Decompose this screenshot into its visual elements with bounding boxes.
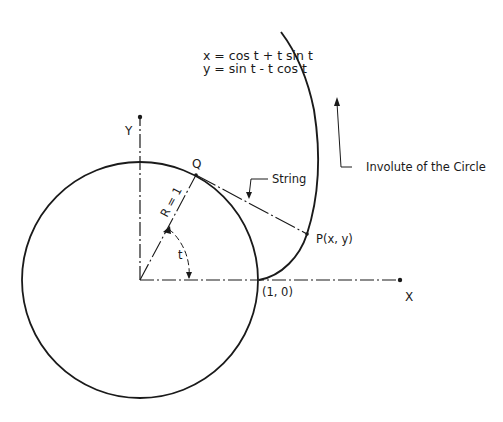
- involute-diagram: x = cos t + t sin t y = sin t - t cos t …: [0, 0, 503, 422]
- point-q-label: Q: [192, 157, 201, 171]
- radius-label: R = 1: [157, 184, 185, 219]
- involute-leader: [337, 103, 352, 167]
- x-axis-end-dot: [398, 278, 402, 282]
- involute-leader-arrow: [334, 97, 340, 106]
- angle-label: t: [178, 248, 183, 262]
- x-axis-label: X: [405, 290, 413, 304]
- involute-label: Involute of the Circle: [366, 160, 486, 174]
- angle-arrow-bottom: [186, 272, 192, 279]
- string-label: String: [272, 172, 306, 186]
- equation-y: y = sin t - t cos t: [203, 61, 307, 76]
- string-leader-arrow: [246, 192, 252, 199]
- y-axis-end-dot: [138, 115, 142, 119]
- angle-arrow-top: [163, 226, 171, 234]
- string-leader: [249, 179, 268, 196]
- y-axis-label: Y: [124, 124, 133, 138]
- start-point-label: (1, 0): [262, 285, 293, 299]
- point-p-label: P(x, y): [316, 232, 353, 246]
